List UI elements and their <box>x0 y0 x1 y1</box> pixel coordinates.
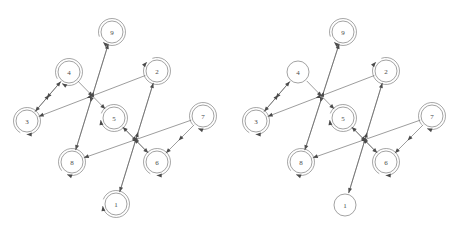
self-loop-arrow-icon <box>27 133 32 137</box>
graph-edge <box>349 83 383 193</box>
graph-node-6[interactable]: 6 <box>375 151 397 173</box>
graph-edge <box>305 44 339 150</box>
node-circle[interactable] <box>103 107 125 129</box>
self-loop-arrow-icon <box>328 120 332 125</box>
self-loop-arrow-icon <box>142 62 147 67</box>
graph-node-2[interactable]: 2 <box>146 60 168 82</box>
edge-mid-arrow-icon <box>364 132 368 137</box>
edge-mid-arrow-icon <box>135 132 139 137</box>
node-circle[interactable] <box>245 110 267 132</box>
node-circle[interactable] <box>192 105 214 127</box>
graph-node-8[interactable]: 8 <box>61 151 83 173</box>
edge-layer <box>242 18 445 193</box>
graph-node-4[interactable]: 4 <box>287 61 309 83</box>
graph-edge <box>313 120 420 158</box>
self-loop-arrow-icon <box>296 175 301 179</box>
self-loop-arrow-icon <box>99 120 103 125</box>
node-layer: 123456789 <box>16 21 214 215</box>
node-circle[interactable] <box>290 151 312 173</box>
node-circle[interactable] <box>105 193 127 215</box>
node-circle[interactable] <box>375 60 397 82</box>
node-circle[interactable] <box>16 110 38 132</box>
graph-edge <box>76 44 109 150</box>
graph-node-5[interactable]: 5 <box>103 107 125 129</box>
self-loop-arrow-icon <box>67 175 72 179</box>
graph-node-7[interactable]: 7 <box>192 105 214 127</box>
graph-node-8[interactable]: 8 <box>290 151 312 173</box>
left-graph-panel: 123456789 <box>0 0 229 232</box>
self-loop-arrow-icon <box>427 129 432 133</box>
node-circle[interactable] <box>146 151 168 173</box>
node-circle[interactable] <box>421 105 443 127</box>
graph-edge <box>84 120 191 158</box>
graph-node-2[interactable]: 2 <box>375 60 397 82</box>
graph-node-4[interactable]: 4 <box>58 61 80 83</box>
node-circle[interactable] <box>334 194 356 216</box>
self-loop-arrow-icon <box>256 133 261 137</box>
node-circle[interactable] <box>287 61 309 83</box>
node-circle[interactable] <box>61 151 83 173</box>
self-loop-arrow-icon <box>157 174 162 178</box>
graph-node-9[interactable]: 9 <box>101 21 123 43</box>
left-graph: 123456789 <box>0 0 229 232</box>
node-circle[interactable] <box>332 21 354 43</box>
graph-node-9[interactable]: 9 <box>332 21 354 43</box>
self-loop-arrow-icon <box>386 174 391 178</box>
graph-node-7[interactable]: 7 <box>421 105 443 127</box>
graph-node-1[interactable]: 1 <box>334 194 356 216</box>
node-circle[interactable] <box>101 21 123 43</box>
node-circle[interactable] <box>375 151 397 173</box>
right-graph: 123456789 <box>229 0 458 232</box>
graph-node-3[interactable]: 3 <box>245 110 267 132</box>
self-loop-arrow-icon <box>371 62 376 67</box>
graph-node-5[interactable]: 5 <box>332 107 354 129</box>
graph-figure: 123456789 123456789 <box>0 0 458 232</box>
node-circle[interactable] <box>332 107 354 129</box>
graph-node-6[interactable]: 6 <box>146 151 168 173</box>
self-loop-arrow-icon <box>62 84 67 88</box>
self-loop-arrow-icon <box>198 129 203 133</box>
node-circle[interactable] <box>58 61 80 83</box>
right-graph-panel: 123456789 <box>229 0 458 232</box>
graph-node-3[interactable]: 3 <box>16 110 38 132</box>
node-layer: 123456789 <box>245 21 443 216</box>
self-loop-arrow-icon <box>101 206 105 211</box>
graph-node-1[interactable]: 1 <box>105 193 127 215</box>
graph-edge <box>120 83 154 192</box>
node-circle[interactable] <box>146 60 168 82</box>
